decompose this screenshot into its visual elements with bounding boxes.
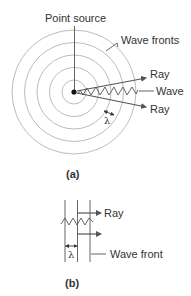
wavelength-symbol-a: λ	[104, 115, 111, 126]
caption-a: (a)	[66, 168, 80, 180]
wave-label: Wave	[156, 85, 184, 97]
point-source-dot	[71, 89, 76, 94]
wave-zigzag	[78, 87, 138, 95]
figure-b: λ Ray Wave front (b)	[61, 200, 163, 289]
wave-fronts-label: Wave fronts	[121, 34, 180, 46]
ray-b-label: Ray	[104, 207, 124, 219]
caption-b: (b)	[65, 277, 79, 289]
wavelength-symbol-b: λ	[68, 249, 75, 260]
ray-upper-label: Ray	[150, 68, 170, 80]
wave-b-zigzag	[61, 218, 93, 225]
ray-lower-label: Ray	[150, 103, 170, 115]
figure-a: Point source Wave fronts Ray Wave Ray λ …	[12, 12, 184, 180]
wave-diagram: Point source Wave fronts Ray Wave Ray λ …	[0, 0, 191, 296]
point-source-label: Point source	[45, 12, 106, 24]
wave-front-label: Wave front	[110, 248, 163, 260]
